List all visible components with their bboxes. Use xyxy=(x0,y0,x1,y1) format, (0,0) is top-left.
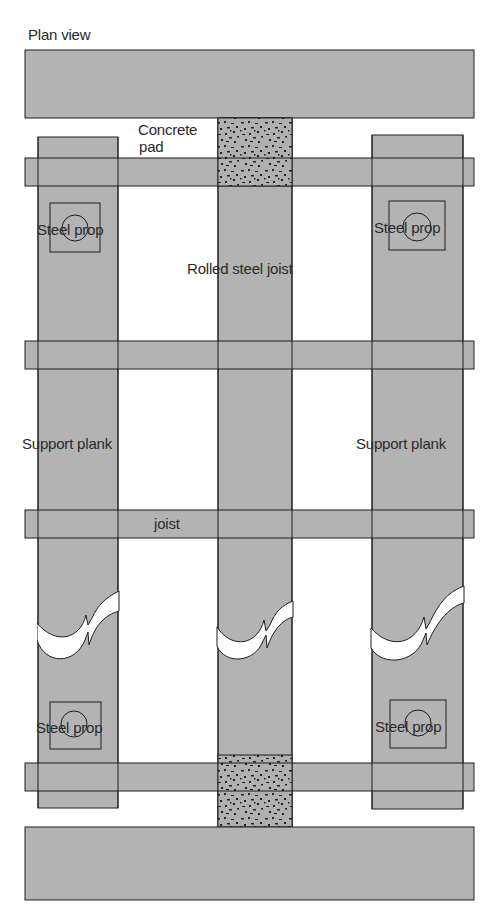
joist-2 xyxy=(25,341,474,369)
label-support-plank-left: Support plank xyxy=(22,436,112,451)
joist-3 xyxy=(25,510,474,538)
label-steel-prop-top-right: Steel prop xyxy=(374,220,440,235)
bottom-beam xyxy=(25,827,474,900)
label-steel-prop-bottom-left: Steel prop xyxy=(36,720,102,735)
label-support-plank-right: Support plank xyxy=(356,436,446,451)
top-beam xyxy=(25,50,474,118)
diagram-title: Plan view xyxy=(28,27,90,42)
label-concrete-pad-line1: Concrete xyxy=(138,122,197,137)
label-steel-prop-bottom-right: Steel prop xyxy=(375,719,441,734)
support-plank-right xyxy=(372,135,463,809)
label-steel-prop-top-left: Steel prop xyxy=(37,222,103,237)
label-joist: joist xyxy=(154,516,180,531)
label-rolled-steel-joist: Rolled steel joist xyxy=(187,261,293,276)
label-concrete-pad-line2: pad xyxy=(139,139,163,154)
plan-view-diagram xyxy=(0,0,492,906)
rolled-steel-joist xyxy=(218,118,292,827)
concrete-pad-top xyxy=(218,118,292,186)
